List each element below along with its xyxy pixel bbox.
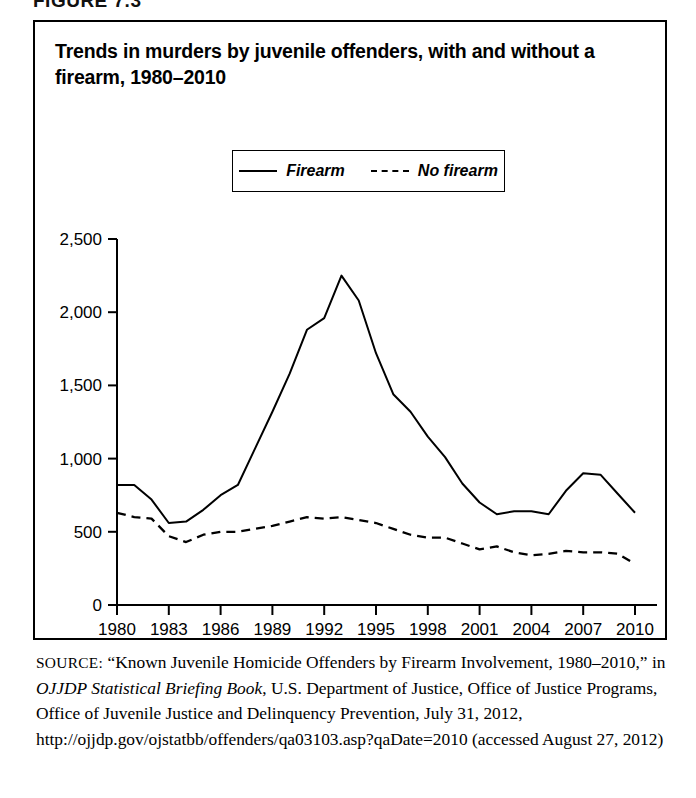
figure-page: FIGURE 7.3 Trends in murders by juvenile…: [0, 0, 696, 798]
figure-tag: FIGURE 7.3: [33, 0, 141, 12]
legend-line-dashed-icon: [371, 170, 409, 172]
legend-item-firearm: Firearm: [239, 162, 345, 180]
legend-line-solid-icon: [239, 170, 277, 172]
legend-label-firearm: Firearm: [286, 162, 345, 180]
source-text-part-1: “Known Juvenile Homicide Offenders by Fi…: [103, 652, 665, 672]
legend-item-no-firearm: No firearm: [371, 162, 498, 180]
source-note: SOURCE: “Known Juvenile Homicide Offende…: [36, 650, 666, 752]
legend-label-no-firearm: No firearm: [418, 162, 498, 180]
page-title: Trends in murders by juvenile offenders,…: [55, 38, 640, 90]
source-publication-title: OJJDP Statistical Briefing Book: [36, 678, 262, 698]
chart-legend: Firearm No firearm: [232, 150, 505, 192]
figure-frame: Trends in murders by juvenile offenders,…: [33, 20, 667, 640]
source-kicker: SOURCE:: [36, 654, 103, 671]
